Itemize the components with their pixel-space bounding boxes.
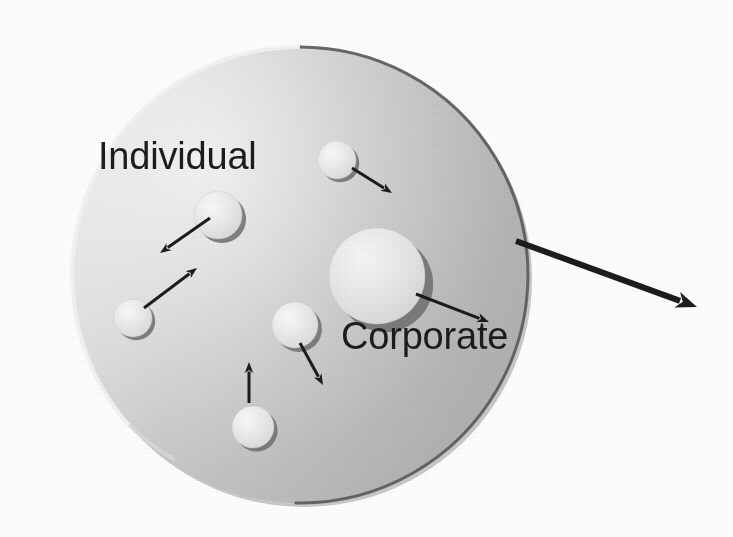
label-corporate: Corporate (341, 317, 508, 355)
arrow-export-main (516, 241, 697, 308)
label-individual: Individual (98, 137, 257, 175)
diagram-canvas: Individual Corporate (0, 0, 733, 537)
market-boundary-circle (72, 47, 532, 507)
diagram-svg (0, 0, 733, 537)
